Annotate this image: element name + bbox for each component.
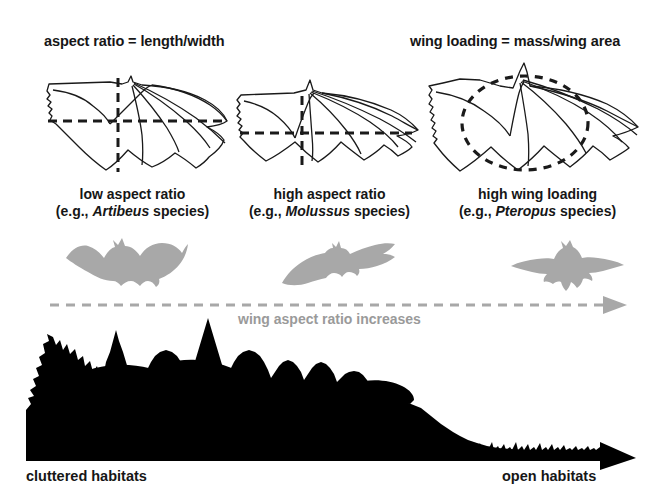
ground-strip xyxy=(26,450,606,461)
species-name: Molussus xyxy=(286,203,351,219)
caption-line-example: (e.g., Molussus species) xyxy=(222,203,437,220)
wing-outline xyxy=(429,63,638,171)
wing-diagram-high-wing-loading xyxy=(429,63,638,171)
caption-line-primary: high wing loading xyxy=(430,186,645,203)
wing-diagram-low-aspect-ratio xyxy=(47,76,227,170)
caption-prefix: (e.g., xyxy=(56,203,93,219)
wing-tip-membrane xyxy=(322,93,418,130)
wing-digit-4 xyxy=(520,83,529,166)
wing-bone-arm xyxy=(53,90,110,124)
habitat-silhouette xyxy=(26,318,606,461)
wing-digit-4 xyxy=(132,86,143,165)
wing-digit-4 xyxy=(309,94,313,161)
caption-line-primary: low aspect ratio xyxy=(25,186,240,203)
bat-silhouette-intermediate xyxy=(282,241,395,285)
caption-suffix: species) xyxy=(149,203,209,219)
caption-suffix: species) xyxy=(350,203,410,219)
wing-tip-membrane xyxy=(530,86,638,127)
caption-low-aspect-ratio: low aspect ratio (e.g., Artibeus species… xyxy=(25,186,240,220)
wing-outline xyxy=(237,80,418,162)
wing-digit-3 xyxy=(521,82,586,153)
species-name: Pteropus xyxy=(495,203,556,219)
caption-prefix: (e.g., xyxy=(459,203,496,219)
caption-high-wing-loading: high wing loading (e.g., Pteropus specie… xyxy=(430,186,645,220)
wing-digit-2 xyxy=(134,84,210,148)
caption-line-example: (e.g., Artibeus species) xyxy=(25,203,240,220)
habitat-axis-arrow-head xyxy=(600,442,636,470)
caption-suffix: species) xyxy=(556,203,616,219)
trend-arrow-head xyxy=(603,296,627,314)
trend-arrow-label: wing aspect ratio increases xyxy=(238,311,421,327)
bat-silhouette-broad-winged xyxy=(66,238,188,287)
caption-line-primary: high aspect ratio xyxy=(222,186,437,203)
bat-wing-habitat-diagram xyxy=(0,0,647,501)
wing-digit-2 xyxy=(311,92,398,147)
caption-high-aspect-ratio: high aspect ratio (e.g., Molussus specie… xyxy=(222,186,437,220)
aspect-ratio-title: aspect ratio = length/width xyxy=(44,33,225,49)
habitat-label-cluttered: cluttered habitats xyxy=(26,468,147,484)
wing-loading-title: wing loading = mass/wing area xyxy=(410,33,620,49)
caption-prefix: (e.g., xyxy=(249,203,286,219)
habitat-label-open: open habitats xyxy=(502,468,596,484)
species-name: Artibeus xyxy=(92,203,149,219)
wing-diagram-high-aspect-ratio xyxy=(237,80,418,162)
wing-bone-forearm xyxy=(510,82,524,136)
caption-line-example: (e.g., Pteropus species) xyxy=(430,203,645,220)
bat-silhouette-narrow-winged xyxy=(511,240,624,291)
